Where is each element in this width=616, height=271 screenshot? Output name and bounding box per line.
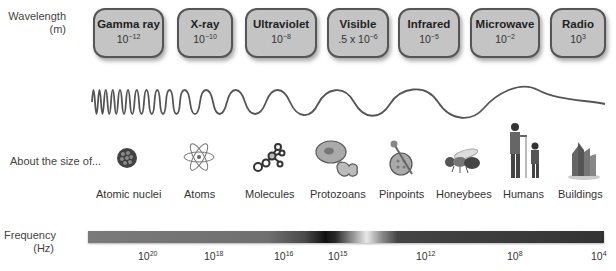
caption-pinpoints: Pinpoints [379, 188, 424, 200]
caption-protozoans: Protozoans [310, 188, 366, 200]
caption-honeybees: Honeybees [436, 188, 492, 200]
frequency-bar [88, 231, 604, 243]
caption-buildings: Buildings [558, 188, 603, 200]
band-wavelength: 10−12 [95, 33, 162, 45]
frequency-tick: 1015 [328, 250, 347, 262]
humans-icon [503, 122, 547, 180]
band-wavelength: 10−5 [400, 33, 458, 45]
band-x-ray: X-ray 10−10 [177, 8, 233, 58]
band-wavelength: 103 [552, 33, 604, 45]
band-wavelength: 10−2 [472, 33, 538, 45]
band-gamma-ray: Gamma ray 10−12 [93, 8, 164, 58]
wavelength-label: Wavelength (m) [4, 10, 66, 36]
caption-atomic-nuclei: Atomic nuclei [96, 188, 161, 200]
caption-humans: Humans [503, 188, 544, 200]
frequency-tick: 1020 [138, 250, 157, 262]
band-name: X-ray [179, 18, 231, 30]
frequency-label-text: Frequency [4, 229, 54, 242]
band-radio: Radio 103 [550, 8, 606, 58]
band-wavelength: 10−10 [179, 33, 231, 45]
atomic-nucleus-icon [115, 146, 139, 170]
frequency-tick: 1012 [416, 250, 435, 262]
band-visible: Visible .5 x 10−6 [327, 8, 389, 58]
honeybee-icon [442, 146, 484, 174]
frequency-label: Frequency (Hz) [4, 229, 54, 255]
frequency-unit: (Hz) [4, 242, 54, 255]
frequency-tick: 104 [591, 250, 607, 262]
band-microwave: Microwave 10−2 [470, 8, 540, 58]
band-wavelength: .5 x 10−6 [329, 33, 387, 45]
caption-atoms: Atoms [184, 188, 215, 200]
size-of-label: About the size of... [10, 155, 101, 168]
frequency-tick: 1016 [274, 250, 293, 262]
band-name: Radio [552, 18, 604, 30]
band-infrared: Infrared 10−5 [398, 8, 460, 58]
pinpoint-icon [386, 138, 420, 178]
band-name: Microwave [472, 18, 538, 30]
protozoan-icon [313, 136, 363, 180]
band-name: Gamma ray [95, 18, 162, 30]
frequency-tick: 108 [507, 250, 523, 262]
size-of-text: About the size of... [10, 155, 101, 167]
band-wavelength: 10−8 [247, 33, 315, 45]
band-name: Ultraviolet [247, 18, 315, 30]
wavelength-label-text: Wavelength [4, 10, 66, 23]
atom-icon [182, 142, 216, 172]
molecule-icon [252, 141, 288, 175]
wavelength-unit: (m) [4, 23, 66, 36]
band-name: Visible [329, 18, 387, 30]
buildings-icon [566, 140, 602, 180]
frequency-tick: 1018 [204, 250, 223, 262]
caption-molecules: Molecules [245, 188, 295, 200]
band-ultraviolet: Ultraviolet 10−8 [245, 8, 317, 58]
band-name: Infrared [400, 18, 458, 30]
